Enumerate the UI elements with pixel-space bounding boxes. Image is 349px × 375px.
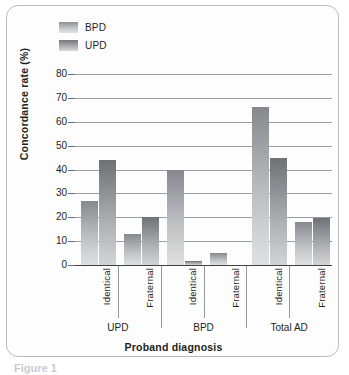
y-axis-tick-labels: 01020304050607080 (45, 74, 67, 265)
y-tick-label-60: 60 (45, 116, 67, 127)
y-tick-10 (68, 241, 75, 242)
x-axis-group-labels: UPDBPDTotal AD (75, 318, 332, 336)
bar-UPD-1 (142, 217, 159, 265)
legend-swatch-upd (59, 40, 78, 51)
y-tick-label-20: 20 (45, 211, 67, 222)
category-separator-5 (289, 266, 290, 318)
y-tick-30 (68, 193, 75, 194)
category-label-4: Identical (273, 268, 285, 318)
y-tick-60 (68, 122, 75, 123)
category-label-0: Identical (101, 268, 113, 318)
group-label-upd: UPD (107, 322, 128, 333)
bar-series-container (75, 74, 332, 265)
legend-label-bpd: BPD (85, 22, 106, 33)
y-tick-40 (68, 170, 75, 171)
group-label-total-ad: Total AD (271, 322, 308, 333)
y-tick-label-30: 30 (45, 187, 67, 198)
y-tick-label-70: 70 (45, 92, 67, 103)
y-tick-50 (68, 146, 75, 147)
y-tick-label-80: 80 (45, 68, 67, 79)
bar-BPD-2 (167, 170, 184, 266)
group-label-bpd: BPD (193, 322, 214, 333)
plot-area (75, 74, 332, 265)
y-tick-20 (68, 217, 75, 218)
y-axis-title: Concordance rate (%) (18, 29, 30, 179)
legend-swatch-bpd (59, 22, 78, 33)
category-separator-1 (118, 266, 119, 318)
y-tick-label-10: 10 (45, 235, 67, 246)
bar-BPD-5 (295, 222, 312, 265)
y-tick-label-0: 0 (45, 259, 67, 270)
category-label-1: Fraternal (144, 268, 156, 318)
x-axis-category-labels: IdenticalFraternalIdenticalFraternalIden… (75, 266, 332, 318)
group-separator-2 (246, 316, 247, 328)
y-tick-label-40: 40 (45, 164, 67, 175)
bar-UPD-4 (270, 158, 287, 265)
category-separator-4 (246, 266, 247, 318)
category-label-3: Fraternal (230, 268, 242, 318)
y-tick-80 (68, 74, 75, 75)
y-tick-0 (68, 265, 75, 266)
y-tick-70 (68, 98, 75, 99)
category-separator-2 (161, 266, 162, 318)
bar-BPD-1 (124, 234, 141, 265)
category-separator-3 (204, 266, 205, 318)
category-label-2: Identical (187, 268, 199, 318)
x-axis-title: Proband diagnosis (7, 341, 340, 353)
bar-UPD-0 (99, 160, 116, 265)
y-tick-label-50: 50 (45, 140, 67, 151)
bar-BPD-0 (81, 201, 98, 265)
chart-legend: BPD UPD (59, 20, 107, 56)
legend-item-upd: UPD (59, 38, 107, 52)
bar-BPD-3 (210, 253, 227, 265)
group-separator-1 (161, 316, 162, 328)
legend-label-upd: UPD (85, 40, 107, 51)
category-label-5: Fraternal (316, 268, 328, 318)
legend-item-bpd: BPD (59, 20, 107, 34)
figure-caption: Figure 1 (14, 362, 334, 375)
bar-BPD-4 (252, 107, 269, 265)
figure-frame: BPD UPD Concordance rate (%) 01020304050… (6, 5, 339, 357)
bar-UPD-5 (313, 218, 330, 265)
